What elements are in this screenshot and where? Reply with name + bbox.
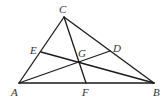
label-a: A <box>10 86 18 98</box>
label-d: D <box>112 42 121 54</box>
label-c: C <box>59 3 67 15</box>
segments <box>19 17 154 83</box>
label-b: B <box>153 86 160 98</box>
label-e: E <box>29 44 37 56</box>
side-ca <box>19 17 64 83</box>
label-g: G <box>78 47 86 59</box>
triangle-diagram: A B C D E F G <box>0 0 167 101</box>
cevian-be <box>41 52 154 83</box>
label-f: F <box>81 86 89 98</box>
vertex-labels: A B C D E F G <box>10 3 160 98</box>
